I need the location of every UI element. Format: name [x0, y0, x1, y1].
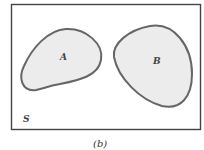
set-a-label: A — [59, 52, 67, 62]
set-b-label: B — [152, 56, 161, 66]
universe-label: S — [23, 114, 30, 124]
caption: (b) — [93, 138, 107, 149]
venn-diagram: A B S (b) — [0, 0, 204, 150]
